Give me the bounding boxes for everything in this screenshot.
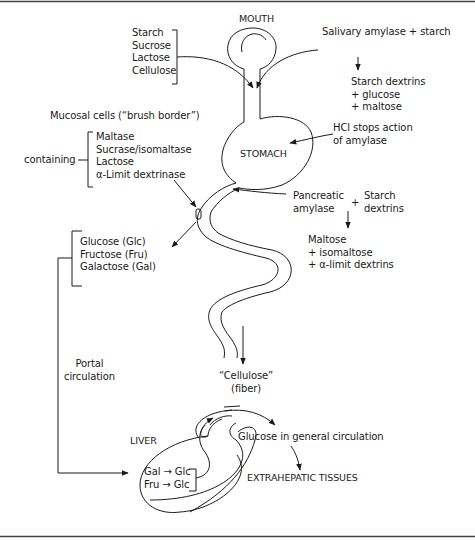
general-circulation-label: Glucose in general circulation [238,431,384,444]
mouth-label: MOUTH [239,13,274,26]
liver-conversion: Gal → Glc [144,466,191,479]
output-inner-line [210,416,232,425]
diet-item: Lactose [132,52,176,65]
arrow-to-general-circulation [225,410,275,425]
enzyme-item: Sucrase/isomaltase [96,144,192,157]
monosaccharide-item: Fructose (Fru) [80,249,156,262]
pancreatic-product: + α-limit dextrins [308,259,394,272]
pancreatic-amylase-label: Pancreatic amylase [293,190,344,215]
conversion-to: Glc [175,466,191,477]
pancreatic-line: Pancreatic [293,190,344,203]
liver-label: LIVER [130,435,157,448]
substrate-line: Starch [364,190,404,203]
monosaccharide-item: Galactose (Gal) [80,261,156,274]
carbohydrate-digestion-diagram: MOUTH Starch Sucrose Lactose Cellulose S… [0,0,475,541]
diet-item: Cellulose [132,65,176,78]
mouth-product: + maltose [351,101,425,114]
arrow-saliva-to-mouth [257,50,318,88]
hcl-line: HCl stops action [333,122,413,135]
intestine-outer [197,183,278,358]
output-stream-line [224,406,240,407]
conversion-to: Glc [174,479,190,490]
conversion-arrow: → [162,479,170,490]
portal-line: Portal [64,358,115,371]
diet-item: Starch [132,27,176,40]
hcl-line: of amylase [333,135,413,148]
enzyme-item: Maltase [96,131,192,144]
conversion-from: Fru [144,479,159,490]
pancreatic-product: + isomaltose [308,247,394,260]
arrow-border-to-monosaccharides [172,222,196,247]
arrow-diet-to-mouth [177,57,253,88]
mouth-product: Starch dextrins [351,76,425,89]
enzyme-item: Lactose [96,156,192,169]
liver-conversions: Gal → Glc Fru → Glc [144,466,191,491]
portal-line: circulation [64,371,115,384]
enzyme-bracket [88,132,93,187]
dietary-carbohydrates-list: Starch Sucrose Lactose Cellulose [132,27,176,77]
arrow-hcl [290,134,333,143]
mouth-products: Starch dextrins + glucose + maltose [351,76,425,114]
hcl-note: HCl stops action of amylase [333,122,413,147]
containing-label: containing [24,154,76,167]
pancreatic-product: Maltose [308,234,394,247]
fiber-label: “Cellulose” (fiber) [219,370,273,395]
pancreatic-line: amylase [293,203,344,216]
enzyme-item: α-Limit dextrinase [96,169,192,182]
absorbed-monosaccharides: Glucose (Glc) Fructose (Fru) Galactose (… [80,236,156,274]
diet-item: Sucrose [132,40,176,53]
portal-circulation-label: Portal circulation [64,358,115,383]
plus-sign: + [351,197,359,210]
extrahepatic-tissues-label: EXTRAHEPATIC TISSUES [247,472,358,485]
fiber-line: “Cellulose” [219,370,273,383]
conversion-arrow: → [163,466,171,477]
starch-dextrins-label: Starch dextrins [364,190,404,215]
mouth-product: + glucose [351,89,425,102]
intestine-inner [210,188,291,358]
mouth-curl [241,34,266,52]
arrow-to-extrahepatic [291,446,300,470]
arrow-enzymes-to-border [174,180,196,207]
liver-conversion: Fru → Glc [144,479,191,492]
substrate-line: dextrins [364,203,404,216]
arrow-liver-output [196,418,213,478]
salivary-amylase-label: Salivary amylase + starch [322,26,451,39]
fiber-line: (fiber) [219,383,273,396]
pancreatic-products: Maltose + isomaltose + α-limit dextrins [308,234,394,272]
stomach-label: STOMACH [240,148,287,161]
monosaccharide-item: Glucose (Glc) [80,236,156,249]
brush-border-enzymes: Maltase Sucrase/isomaltase Lactose α-Lim… [96,131,192,181]
mucosal-cells-title: Mucosal cells (“brush border”) [50,110,200,123]
conversion-from: Gal [144,466,160,477]
